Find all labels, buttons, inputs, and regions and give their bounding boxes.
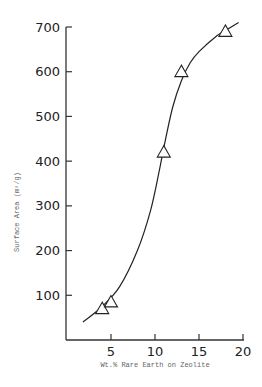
fit-curve — [83, 23, 239, 323]
triangle-marker — [219, 25, 232, 36]
data-points — [96, 25, 232, 314]
triangle-marker — [105, 295, 118, 306]
y-tick-label: 400 — [35, 154, 60, 169]
x-tick-label: 20 — [235, 344, 252, 359]
y-tick-label: 500 — [35, 109, 60, 124]
x-axis-title: Wt.% Rare Earth on Zeolite — [100, 361, 209, 369]
y-tick-label: 300 — [35, 198, 60, 213]
x-tick-label: 10 — [147, 344, 164, 359]
y-tick-label: 200 — [35, 243, 60, 258]
triangle-marker — [157, 146, 170, 157]
y-axis-title: Surface Area (m²/g) — [13, 172, 21, 252]
y-tick-label: 100 — [35, 288, 60, 303]
y-tick-label: 700 — [35, 20, 60, 35]
surface-area-chart: 100200300400500600700 5101520 Wt.% Rare … — [0, 0, 262, 387]
x-tick-label: 5 — [107, 344, 115, 359]
y-tick-label: 600 — [35, 64, 60, 79]
x-tick-label: 15 — [191, 344, 208, 359]
x-ticks: 5101520 — [107, 334, 251, 359]
axes — [66, 27, 244, 340]
